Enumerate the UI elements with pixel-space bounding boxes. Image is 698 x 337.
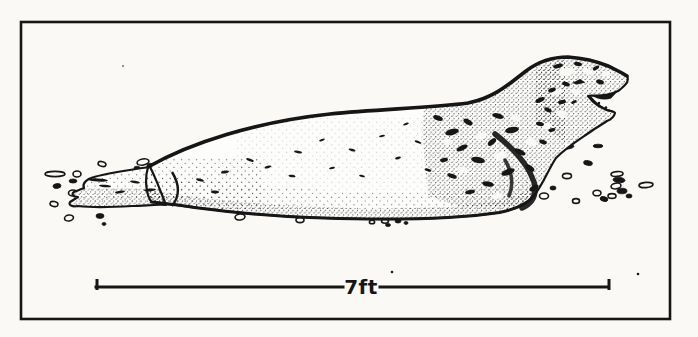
pebble bbox=[617, 188, 627, 194]
pebble bbox=[404, 222, 408, 225]
seal-illustration: 7ft bbox=[0, 0, 698, 337]
pebble bbox=[608, 194, 616, 199]
pebble bbox=[102, 223, 106, 226]
pebble bbox=[540, 193, 549, 199]
pebble bbox=[611, 171, 623, 177]
pebble bbox=[64, 214, 74, 221]
pebble bbox=[96, 214, 104, 219]
scale-bar: 7ft bbox=[96, 275, 609, 299]
pebble bbox=[613, 177, 625, 184]
pebble bbox=[550, 186, 556, 190]
pebble bbox=[53, 183, 62, 189]
pebble bbox=[563, 173, 572, 178]
pebble bbox=[573, 199, 580, 204]
pebble bbox=[45, 171, 65, 176]
pebble bbox=[593, 144, 603, 148]
scale-bar-label: 7ft bbox=[344, 275, 378, 299]
pebble bbox=[593, 190, 601, 196]
pebble bbox=[98, 161, 107, 168]
pebble bbox=[626, 194, 632, 198]
figure-page: 7ft bbox=[0, 0, 698, 337]
pebble bbox=[50, 201, 59, 208]
pebble bbox=[369, 220, 374, 224]
pebble bbox=[639, 182, 653, 188]
pebble bbox=[600, 196, 609, 203]
pebble bbox=[386, 224, 391, 227]
pebble bbox=[69, 179, 77, 183]
pebble bbox=[583, 160, 593, 166]
pebble bbox=[73, 171, 81, 177]
